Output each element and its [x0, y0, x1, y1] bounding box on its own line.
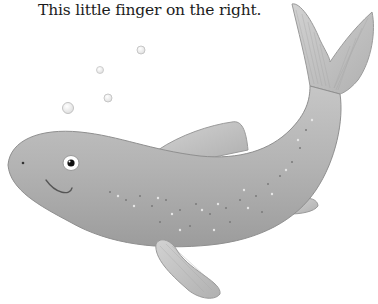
eye-icon	[63, 156, 79, 171]
bubble-icon	[63, 103, 74, 114]
fish-body	[8, 86, 341, 247]
tail-fin	[292, 4, 373, 94]
nostril-icon	[22, 162, 25, 165]
bubble-icon	[97, 67, 104, 74]
bubble-icon	[104, 94, 112, 102]
bubble-icon	[137, 46, 145, 54]
fish-illustration	[0, 0, 378, 304]
pectoral-fin	[156, 240, 220, 298]
bubbles	[63, 46, 146, 114]
